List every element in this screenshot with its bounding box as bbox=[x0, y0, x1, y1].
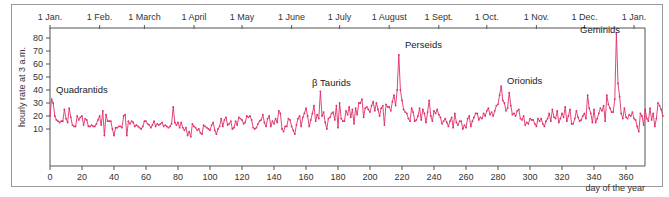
data-point bbox=[134, 126, 136, 128]
data-point bbox=[377, 109, 379, 111]
data-point bbox=[148, 124, 150, 126]
data-point bbox=[355, 107, 357, 109]
data-point bbox=[609, 107, 611, 109]
data-point bbox=[212, 122, 214, 124]
data-point bbox=[169, 126, 171, 128]
data-point bbox=[484, 115, 486, 117]
data-point bbox=[657, 102, 659, 104]
data-point bbox=[155, 126, 157, 128]
data-point bbox=[315, 120, 317, 122]
data-point bbox=[403, 109, 405, 111]
data-point bbox=[384, 124, 386, 126]
data-point bbox=[513, 113, 515, 115]
data-point bbox=[569, 109, 571, 111]
data-point bbox=[486, 110, 488, 112]
data-point bbox=[241, 119, 243, 121]
data-point bbox=[441, 123, 443, 125]
x-tick-label: 220 bbox=[394, 172, 409, 182]
data-point bbox=[516, 110, 518, 112]
data-point bbox=[470, 126, 472, 128]
data-point bbox=[110, 120, 112, 122]
data-point bbox=[435, 113, 437, 115]
data-point bbox=[481, 118, 483, 120]
data-point bbox=[353, 123, 355, 125]
x-tick-label: 120 bbox=[234, 172, 249, 182]
data-point bbox=[505, 110, 507, 112]
data-point bbox=[254, 128, 256, 130]
data-point bbox=[390, 110, 392, 112]
data-point bbox=[652, 113, 654, 115]
data-point bbox=[494, 110, 496, 112]
data-point bbox=[537, 118, 539, 120]
data-point bbox=[73, 126, 75, 128]
data-point bbox=[398, 54, 400, 56]
data-point bbox=[374, 110, 376, 112]
data-point bbox=[529, 118, 531, 120]
data-point bbox=[232, 128, 234, 130]
data-point bbox=[646, 118, 648, 120]
data-point bbox=[131, 120, 133, 122]
data-point bbox=[352, 109, 354, 111]
data-point bbox=[107, 120, 109, 122]
data-point bbox=[171, 123, 173, 125]
y-axis-label: hourly rate at 3 a.m. bbox=[17, 47, 27, 127]
data-point bbox=[382, 105, 384, 107]
y-tick-label: 40 bbox=[33, 85, 43, 95]
data-point bbox=[256, 127, 258, 129]
data-point bbox=[283, 131, 285, 133]
data-point bbox=[336, 105, 338, 107]
data-point bbox=[406, 113, 408, 115]
data-point bbox=[153, 120, 155, 122]
data-point bbox=[347, 114, 349, 116]
data-point bbox=[200, 132, 202, 134]
data-point bbox=[641, 115, 643, 117]
data-point bbox=[139, 127, 141, 129]
data-point bbox=[294, 133, 296, 135]
data-point bbox=[113, 135, 115, 137]
data-point bbox=[214, 129, 216, 131]
data-point bbox=[414, 120, 416, 122]
data-point bbox=[520, 118, 522, 120]
data-point bbox=[142, 126, 144, 128]
data-point bbox=[387, 106, 389, 108]
data-point bbox=[291, 126, 293, 128]
data-point bbox=[156, 123, 158, 125]
data-point bbox=[172, 106, 174, 108]
data-point bbox=[208, 128, 210, 130]
data-point bbox=[440, 116, 442, 118]
data-point bbox=[52, 102, 54, 104]
data-point bbox=[240, 118, 242, 120]
data-point bbox=[539, 120, 541, 122]
annotation-orionids: Orionids bbox=[507, 75, 543, 86]
data-point bbox=[88, 126, 90, 128]
data-point bbox=[480, 116, 482, 118]
month-tick-label: 1 Nov. bbox=[524, 12, 549, 22]
data-point bbox=[334, 119, 336, 121]
data-point bbox=[416, 119, 418, 121]
data-point bbox=[236, 124, 238, 126]
x-tick-label: 60 bbox=[141, 172, 151, 182]
data-point bbox=[356, 114, 358, 116]
data-point bbox=[579, 120, 581, 122]
x-tick-label: 20 bbox=[77, 172, 87, 182]
data-point bbox=[518, 109, 520, 111]
data-point bbox=[611, 111, 613, 113]
data-point bbox=[264, 122, 266, 124]
data-point bbox=[270, 126, 272, 128]
x-tick-label: 40 bbox=[109, 172, 119, 182]
data-point bbox=[84, 118, 86, 120]
data-point bbox=[604, 120, 606, 122]
data-point bbox=[592, 122, 594, 124]
data-point bbox=[548, 113, 550, 115]
data-point bbox=[376, 102, 378, 104]
data-point bbox=[108, 120, 110, 122]
data-point bbox=[281, 128, 283, 130]
data-point bbox=[408, 118, 410, 120]
data-point bbox=[568, 115, 570, 117]
data-point bbox=[163, 126, 165, 128]
data-point bbox=[588, 107, 590, 109]
data-point bbox=[67, 122, 69, 124]
data-point bbox=[286, 126, 288, 128]
data-point bbox=[475, 113, 477, 115]
data-point bbox=[152, 124, 154, 126]
